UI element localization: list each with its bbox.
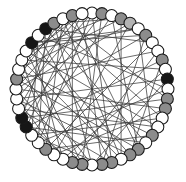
circular-graph-figure [0, 0, 186, 182]
graph-node[interactable] [76, 8, 88, 20]
graph-canvas [0, 0, 186, 182]
